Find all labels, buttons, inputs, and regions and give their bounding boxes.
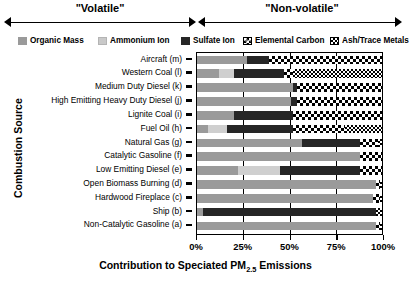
x-axis-title-post: Emissions <box>256 259 311 271</box>
x-axis-title-sub: 2.5 <box>246 265 256 274</box>
y-axis-tick <box>186 71 192 74</box>
y-axis-label: Natural Gas (g) <box>125 138 182 146</box>
bracket-arrow-left-volatile <box>4 17 11 27</box>
y-axis-tick <box>186 196 192 199</box>
stacked-bar <box>197 208 382 217</box>
legend-label-organic-mass: Organic Mass <box>30 36 84 45</box>
x-axis-tick-label: 100% <box>371 241 395 252</box>
bar-segment-om <box>197 125 208 134</box>
legend-item-ammonium-ion: Ammonium Ion <box>98 36 170 45</box>
legend-label-sulfate-ion: Sulfate Ion <box>193 36 235 45</box>
stacked-bar <box>197 139 382 148</box>
bar-segment-su <box>234 69 284 78</box>
bar-segment-om <box>197 83 293 92</box>
y-axis-tick <box>186 224 192 227</box>
bar-row <box>197 56 382 65</box>
bracket-label-volatile: "Volatile" <box>4 2 196 14</box>
bar-row <box>197 69 382 78</box>
bar-segment-at <box>380 180 382 189</box>
bar-segment-am <box>219 69 234 78</box>
legend-swatch-ammonium-ion <box>98 37 107 45</box>
x-axis-tick-label: 0% <box>189 241 203 252</box>
stacked-bar <box>197 56 382 65</box>
bracket-arrow-right-nonvolatile <box>395 17 402 27</box>
y-axis-label: Low Emitting Diesel (e) <box>96 165 182 173</box>
legend-swatch-sulfate-ion <box>181 37 190 45</box>
stacked-bar <box>197 97 382 106</box>
bar-segment-su <box>302 139 359 148</box>
bar-row <box>197 83 382 92</box>
bar-segment-om <box>197 222 376 231</box>
bar-segment-ec <box>373 194 380 203</box>
bar-segment-at <box>376 208 382 217</box>
bar-segment-ec <box>269 56 382 65</box>
bar-segment-su <box>280 166 360 175</box>
y-axis-label: Western Coal (l) <box>122 68 182 76</box>
stacked-bar <box>197 180 382 189</box>
y-axis-labels: Aircraft (m)Western Coal (l)Medium Duty … <box>0 52 192 235</box>
bar-segment-om <box>197 56 247 65</box>
plot-area <box>196 52 383 235</box>
stacked-bar <box>197 152 382 161</box>
legend-label-ash-trace-metals: Ash/Trace Metals <box>342 36 409 45</box>
bar-row <box>197 111 382 120</box>
bar-segment-om <box>197 69 219 78</box>
y-axis-label: Lignite Coal (i) <box>128 110 182 118</box>
figure-speciated-pm25: "Volatile" "Non-volatile" Organic Mass A… <box>0 0 411 295</box>
bar-row <box>197 139 382 148</box>
y-axis-tick <box>186 154 192 157</box>
y-axis-tick <box>186 85 192 88</box>
stacked-bar <box>197 166 382 175</box>
stacked-bar <box>197 222 382 231</box>
bar-segment-su <box>247 56 269 65</box>
legend-label-ammonium-ion: Ammonium Ion <box>110 36 170 45</box>
y-axis-label: Medium Duty Diesel (k) <box>95 82 182 90</box>
stacked-bar <box>197 194 382 203</box>
bar-segment-at <box>293 69 382 78</box>
y-axis-tick <box>186 99 192 102</box>
y-axis-label: High Emitting Heavy Duty Diesel (j) <box>51 96 182 104</box>
bar-segment-at <box>378 139 382 148</box>
x-axis-tick-labels: 0%25%50%75%100% <box>0 241 411 255</box>
x-axis-tick <box>336 235 337 240</box>
y-axis-label: Hardwood Fireplace (c) <box>95 193 182 201</box>
bar-row <box>197 194 382 203</box>
x-axis-tick <box>383 235 384 240</box>
bar-segment-om <box>197 194 373 203</box>
stacked-bar <box>197 111 382 120</box>
x-axis-tick <box>243 235 244 240</box>
x-axis-tick <box>290 235 291 240</box>
bar-segment-om <box>197 166 238 175</box>
y-axis-tick <box>186 58 192 61</box>
bar-segment-su <box>227 125 294 134</box>
legend-swatch-elemental-carbon <box>243 37 252 45</box>
legend-item-elemental-carbon: Elemental Carbon <box>243 36 325 45</box>
bracket-arrow-left-nonvolatile <box>198 17 205 27</box>
y-axis-tick <box>186 113 192 116</box>
y-axis-label: Fuel Oil (h) <box>141 124 182 132</box>
x-axis-tick-label: 25% <box>233 241 252 252</box>
bar-segment-su <box>234 111 293 120</box>
legend-swatch-ash-trace-metals <box>330 37 339 45</box>
y-axis-tick <box>186 168 192 171</box>
bar-segment-am <box>208 125 227 134</box>
y-axis-tick <box>186 210 192 213</box>
bar-segment-ec <box>297 83 382 92</box>
bracket-line-volatile <box>10 22 190 23</box>
y-axis-tick <box>186 182 192 185</box>
bar-row <box>197 166 382 175</box>
legend-item-sulfate-ion: Sulfate Ion <box>181 36 235 45</box>
bar-segment-ec <box>360 139 379 148</box>
bar-segment-om <box>197 152 360 161</box>
x-axis-tick-label: 75% <box>327 241 346 252</box>
bar-row <box>197 222 382 231</box>
bar-segment-su <box>203 208 377 217</box>
bar-segment-ec <box>284 69 293 78</box>
y-axis-tick <box>186 141 192 144</box>
stacked-bar <box>197 125 382 134</box>
bar-segment-om <box>197 139 302 148</box>
bar-segment-om <box>197 97 291 106</box>
y-axis-label: Ship (b) <box>153 207 182 215</box>
bar-segment-at <box>380 194 382 203</box>
x-axis-tick <box>196 235 197 240</box>
